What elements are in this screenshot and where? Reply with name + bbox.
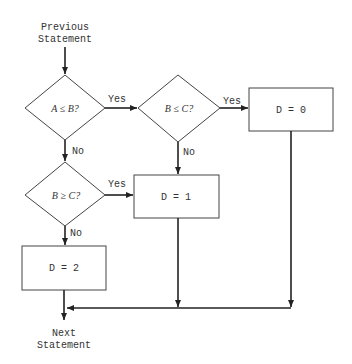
decision-b-le-c: B ≤ C?	[138, 75, 220, 142]
process-d-equals-1-text: D = 1	[161, 192, 191, 203]
flowchart: Previous Statement A ≤ B? Yes No B ≤ C? …	[0, 0, 352, 364]
d3-yes-label: Yes	[108, 179, 126, 190]
decision-b-ge-c: B ≥ C?	[25, 162, 105, 226]
process-d-equals-0: D = 0	[249, 88, 333, 131]
end-label-line1: Next	[52, 328, 76, 339]
d2-no-label: No	[183, 147, 195, 158]
end-label-line2: Statement	[37, 340, 91, 351]
start-label-line2: Statement	[38, 34, 92, 45]
d2-yes-label: Yes	[223, 96, 241, 107]
process-d-equals-1: D = 1	[134, 175, 219, 218]
process-d-equals-2-text: D = 2	[49, 263, 79, 274]
d3-no-label: No	[70, 228, 82, 239]
start-label-line1: Previous	[41, 22, 89, 33]
d1-yes-label: Yes	[108, 94, 126, 105]
decision-a-le-b-text: A ≤ B?	[50, 103, 79, 114]
decision-a-le-b: A ≤ B?	[25, 75, 105, 140]
d1-no-label: No	[72, 146, 84, 157]
decision-b-le-c-text: B ≤ C?	[165, 103, 193, 114]
process-d-equals-2: D = 2	[22, 246, 106, 290]
decision-b-ge-c-text: B ≥ C?	[52, 190, 80, 201]
process-d-equals-0-text: D = 0	[276, 105, 306, 116]
